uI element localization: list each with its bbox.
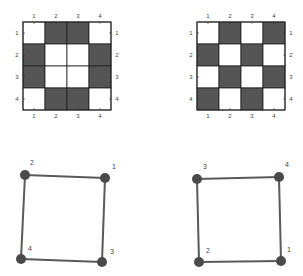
row-label-right: 3 bbox=[287, 74, 295, 80]
dark-cell bbox=[197, 88, 219, 110]
col-label-top: 3 bbox=[74, 13, 82, 19]
node-1 bbox=[276, 256, 286, 266]
light-cell bbox=[219, 88, 241, 110]
light-cell bbox=[23, 88, 45, 110]
col-label-bottom: 4 bbox=[96, 113, 104, 119]
edge-4-1 bbox=[279, 177, 281, 261]
row-label-left: 4 bbox=[13, 96, 21, 102]
col-label-bottom: 1 bbox=[30, 113, 38, 119]
grid-left bbox=[23, 22, 111, 110]
light-cell bbox=[67, 66, 89, 88]
node-label: 2 bbox=[204, 248, 212, 254]
dark-cell bbox=[263, 66, 285, 88]
node-label: 2 bbox=[28, 160, 36, 166]
dark-cell bbox=[45, 88, 67, 110]
dark-cell bbox=[67, 22, 89, 44]
edge-2-3 bbox=[197, 179, 199, 262]
col-label-top: 1 bbox=[30, 13, 38, 19]
dark-cell bbox=[89, 66, 111, 88]
edge-1-2 bbox=[25, 175, 105, 178]
node-label: 3 bbox=[201, 164, 209, 170]
dark-cell bbox=[219, 22, 241, 44]
edge-3-4 bbox=[197, 177, 279, 179]
row-label-right: 2 bbox=[287, 52, 295, 58]
col-label-bottom: 4 bbox=[270, 113, 278, 119]
row-label-left: 3 bbox=[13, 74, 21, 80]
col-label-top: 3 bbox=[248, 13, 256, 19]
node-4 bbox=[16, 254, 26, 264]
node-label: 4 bbox=[283, 162, 291, 168]
node-label: 3 bbox=[108, 249, 116, 255]
row-label-left: 1 bbox=[13, 30, 21, 36]
edge-4-3 bbox=[21, 259, 102, 262]
row-label-left: 1 bbox=[187, 30, 195, 36]
dark-cell bbox=[219, 66, 241, 88]
edge-1-2 bbox=[199, 261, 281, 262]
diagram-canvas bbox=[0, 0, 303, 276]
col-label-top: 4 bbox=[270, 13, 278, 19]
dark-cell bbox=[241, 44, 263, 66]
light-cell bbox=[219, 44, 241, 66]
node-1 bbox=[100, 173, 110, 183]
col-label-top: 2 bbox=[226, 13, 234, 19]
node-3 bbox=[192, 174, 202, 184]
dark-cell bbox=[263, 22, 285, 44]
edge-2-4 bbox=[21, 175, 25, 259]
node-2 bbox=[20, 170, 30, 180]
light-cell bbox=[45, 44, 67, 66]
dark-cell bbox=[89, 44, 111, 66]
edge-3-1 bbox=[102, 178, 105, 262]
row-label-left: 2 bbox=[187, 52, 195, 58]
dark-cell bbox=[45, 22, 67, 44]
col-label-top: 4 bbox=[96, 13, 104, 19]
col-label-bottom: 3 bbox=[248, 113, 256, 119]
dark-cell bbox=[197, 44, 219, 66]
light-cell bbox=[241, 66, 263, 88]
dark-cell bbox=[23, 44, 45, 66]
row-label-left: 3 bbox=[187, 74, 195, 80]
row-label-right: 1 bbox=[287, 30, 295, 36]
col-label-top: 2 bbox=[52, 13, 60, 19]
dark-cell bbox=[23, 66, 45, 88]
light-cell bbox=[45, 66, 67, 88]
row-label-left: 2 bbox=[13, 52, 21, 58]
node-4 bbox=[274, 172, 284, 182]
row-label-right: 1 bbox=[113, 30, 121, 36]
graph-left bbox=[16, 170, 110, 267]
row-label-right: 4 bbox=[113, 96, 121, 102]
node-label: 4 bbox=[26, 246, 34, 252]
row-label-right: 2 bbox=[113, 52, 121, 58]
col-label-bottom: 2 bbox=[226, 113, 234, 119]
light-cell bbox=[23, 22, 45, 44]
col-label-top: 1 bbox=[204, 13, 212, 19]
dark-cell bbox=[241, 88, 263, 110]
col-label-bottom: 1 bbox=[204, 113, 212, 119]
row-label-left: 4 bbox=[187, 96, 195, 102]
light-cell bbox=[89, 22, 111, 44]
node-3 bbox=[97, 257, 107, 267]
light-cell bbox=[263, 44, 285, 66]
light-cell bbox=[89, 88, 111, 110]
dark-cell bbox=[67, 88, 89, 110]
light-cell bbox=[241, 22, 263, 44]
light-cell bbox=[67, 44, 89, 66]
grid-right bbox=[197, 22, 285, 110]
node-label: 1 bbox=[110, 164, 118, 170]
node-label: 1 bbox=[285, 247, 293, 253]
col-label-bottom: 3 bbox=[74, 113, 82, 119]
row-label-right: 3 bbox=[113, 74, 121, 80]
light-cell bbox=[263, 88, 285, 110]
row-label-right: 4 bbox=[287, 96, 295, 102]
light-cell bbox=[197, 22, 219, 44]
col-label-bottom: 2 bbox=[52, 113, 60, 119]
light-cell bbox=[197, 66, 219, 88]
node-2 bbox=[194, 257, 204, 267]
